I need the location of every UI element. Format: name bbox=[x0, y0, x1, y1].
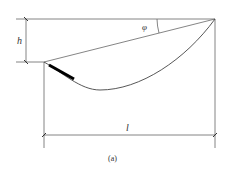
l-label: l bbox=[126, 122, 129, 133]
phi-label: φ bbox=[142, 22, 147, 32]
chord-line bbox=[44, 19, 215, 62]
thick-cable-segment bbox=[49, 65, 74, 79]
cable-sag-diagram: h φ l (a) bbox=[0, 0, 229, 180]
h-label: h bbox=[17, 35, 22, 46]
angle-phi-arc bbox=[157, 19, 159, 33]
diagram-canvas: h φ l (a) bbox=[0, 0, 229, 180]
figure-caption: (a) bbox=[108, 154, 117, 163]
cable-curve bbox=[44, 19, 215, 90]
